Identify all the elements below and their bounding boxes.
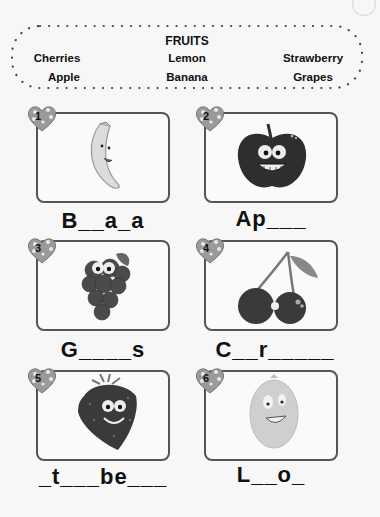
corner-circle-decoration xyxy=(352,0,376,16)
spelling-word: L__o_ xyxy=(196,462,346,488)
item-number: 5 xyxy=(35,372,41,384)
heart-icon xyxy=(194,236,226,264)
word-bank-title: FRUITS xyxy=(6,34,368,48)
strawberry-picture xyxy=(74,374,144,458)
number-heart-badge: 4 xyxy=(194,236,226,264)
number-heart-badge: 3 xyxy=(26,236,58,264)
spelling-word: C__r_____ xyxy=(200,337,350,363)
spelling-word: Ap___ xyxy=(196,206,346,232)
heart-icon xyxy=(26,104,58,132)
heart-icon xyxy=(26,366,58,394)
word-bank-word: Lemon xyxy=(142,52,232,64)
heart-icon xyxy=(26,236,58,264)
grapes-picture xyxy=(76,244,138,328)
spelling-word: B__a_a xyxy=(28,208,178,234)
word-bank-word: Cherries xyxy=(12,52,102,64)
item-number: 4 xyxy=(203,242,209,254)
word-bank-word: Grapes xyxy=(268,71,358,83)
spelling-word: _t___be___ xyxy=(28,464,178,490)
cherries-picture xyxy=(228,246,328,328)
number-heart-badge: 5 xyxy=(26,366,58,394)
number-heart-badge: 2 xyxy=(194,104,226,132)
number-heart-badge: 1 xyxy=(26,104,58,132)
item-number: 2 xyxy=(203,110,209,122)
word-bank-word: Apple xyxy=(19,71,109,83)
word-bank-word: Strawberry xyxy=(268,52,358,64)
heart-icon xyxy=(194,366,226,394)
heart-icon xyxy=(194,104,226,132)
spelling-word: G____s xyxy=(28,337,178,363)
number-heart-badge: 6 xyxy=(194,366,226,394)
item-number: 1 xyxy=(35,110,41,122)
word-bank: FRUITS Cherries Lemon Strawberry Apple B… xyxy=(6,22,368,92)
word-bank-word: Banana xyxy=(142,71,232,83)
item-number: 3 xyxy=(35,242,41,254)
banana-picture xyxy=(80,120,130,195)
apple-picture xyxy=(234,120,310,196)
lemon-picture xyxy=(246,374,302,454)
item-number: 6 xyxy=(203,372,209,384)
